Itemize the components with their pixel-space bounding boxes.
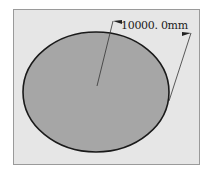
ellipse-shape[interactable] (23, 32, 169, 152)
dimension-arrow-right-icon (182, 32, 191, 36)
dimension-label: 10000. 0mm (121, 20, 188, 32)
dimension-extension-line (169, 33, 191, 101)
